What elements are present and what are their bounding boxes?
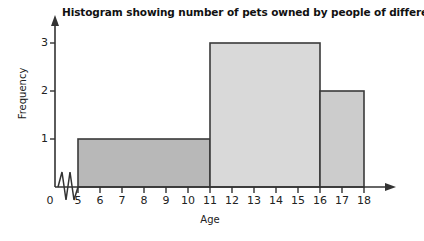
y-axis-arrowhead bbox=[51, 15, 59, 26]
histogram-bar-5-11 bbox=[78, 139, 210, 187]
x-axis-ticks bbox=[78, 187, 364, 193]
histogram-figure: Histogram showing number of pets owned b… bbox=[0, 0, 424, 241]
plot-area bbox=[0, 0, 424, 241]
histogram-bar-16-18 bbox=[320, 91, 364, 187]
axis-break-zigzag-icon bbox=[58, 172, 78, 200]
histogram-bar-11-16 bbox=[210, 43, 320, 187]
x-axis-arrowhead bbox=[385, 183, 396, 191]
